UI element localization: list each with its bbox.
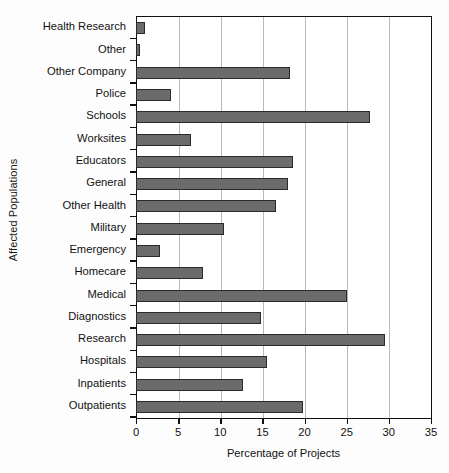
category-label: Police (22, 83, 132, 105)
bar[interactable] (136, 401, 303, 413)
bar-slot (137, 17, 431, 39)
category-label: Medical (22, 283, 132, 305)
x-tick-label: 0 (133, 426, 139, 438)
x-tick-mark (136, 418, 137, 424)
bar-slot (137, 218, 431, 240)
category-label: Diagnostics (22, 306, 132, 328)
category-label: Military (22, 217, 132, 239)
bar-slot (137, 39, 431, 61)
x-tick-label: 20 (298, 426, 310, 438)
bar[interactable] (136, 134, 191, 146)
bar[interactable] (136, 156, 293, 168)
y-axis-category-labels: Health ResearchOtherOther CompanyPoliceS… (22, 16, 132, 417)
bar-slot (137, 84, 431, 106)
x-tick-label: 15 (256, 426, 268, 438)
category-label: Other (22, 38, 132, 60)
bar-slot (137, 307, 431, 329)
x-axis-ticks (136, 418, 431, 424)
x-tick-label: 25 (340, 426, 352, 438)
bar-slot (137, 374, 431, 396)
x-tick-label: 10 (214, 426, 226, 438)
bar-slot (137, 128, 431, 150)
y-axis-title: Affected Populations (2, 0, 24, 420)
category-label: Emergency (22, 239, 132, 261)
bar[interactable] (136, 267, 203, 279)
x-tick-mark (347, 418, 348, 424)
x-tick-mark (305, 418, 306, 424)
bar-series (137, 17, 431, 418)
category-label: Health Research (22, 16, 132, 38)
bar-slot (137, 284, 431, 306)
bar[interactable] (136, 111, 370, 123)
x-tick-mark (178, 418, 179, 424)
bar[interactable] (136, 200, 276, 212)
bar-slot (137, 62, 431, 84)
bar-slot (137, 195, 431, 217)
bar-slot (137, 151, 431, 173)
bar-slot (137, 329, 431, 351)
category-label: General (22, 172, 132, 194)
x-tick-label: 30 (383, 426, 395, 438)
bar[interactable] (136, 223, 224, 235)
category-label: Educators (22, 150, 132, 172)
category-label: Other Company (22, 61, 132, 83)
x-axis-tick-labels: 05101520253035 (136, 426, 431, 442)
bar[interactable] (136, 379, 243, 391)
category-label: Other Health (22, 194, 132, 216)
bar[interactable] (136, 67, 290, 79)
x-tick-label: 5 (175, 426, 181, 438)
bar[interactable] (136, 334, 385, 346)
category-label: Outpatients (22, 395, 132, 417)
x-tick-mark (389, 418, 390, 424)
bar-slot (137, 396, 431, 418)
category-label: Homecare (22, 261, 132, 283)
x-tick-label: 35 (425, 426, 437, 438)
x-axis-title: Percentage of Projects (136, 447, 431, 459)
bar[interactable] (136, 22, 145, 34)
y-axis-title-text: Affected Populations (7, 159, 19, 262)
category-label: Worksites (22, 127, 132, 149)
x-tick-mark (262, 418, 263, 424)
x-tick-mark (431, 418, 432, 424)
bar[interactable] (136, 245, 160, 257)
bar[interactable] (136, 178, 288, 190)
category-label: Schools (22, 105, 132, 127)
bar-slot (137, 351, 431, 373)
plot-area (136, 16, 432, 419)
bar-slot (137, 240, 431, 262)
category-label: Inpatients (22, 373, 132, 395)
bar[interactable] (136, 356, 267, 368)
bar-chart: Affected Populations Health ResearchOthe… (0, 0, 449, 473)
bar-slot (137, 262, 431, 284)
bar[interactable] (136, 44, 140, 56)
bar-slot (137, 173, 431, 195)
category-label: Hospitals (22, 350, 132, 372)
bar[interactable] (136, 89, 171, 101)
bar[interactable] (136, 290, 347, 302)
bar-slot (137, 106, 431, 128)
category-label: Research (22, 328, 132, 350)
bar[interactable] (136, 312, 261, 324)
x-tick-mark (220, 418, 221, 424)
